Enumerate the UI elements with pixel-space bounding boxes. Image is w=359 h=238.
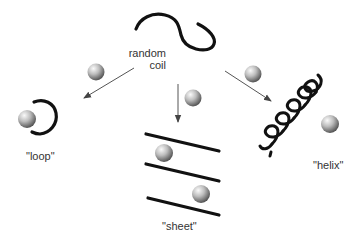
sphere-icon <box>88 64 105 81</box>
sphere-icon <box>192 185 210 203</box>
loop-label: "loop" <box>26 150 55 162</box>
random-coil-label-line2: coil <box>118 59 166 71</box>
sphere-icon <box>18 110 36 128</box>
random-coil-label: random coil <box>118 47 166 71</box>
sphere-icon <box>321 115 339 133</box>
random-coil-label-line1: random <box>118 47 166 59</box>
helix-strand <box>260 75 321 156</box>
helix-label: "helix" <box>313 159 343 171</box>
sphere-icon <box>155 144 173 162</box>
random-coil-strand <box>136 14 214 50</box>
sheet-strand-2 <box>146 164 219 181</box>
sphere-icon <box>245 66 262 83</box>
sphere-icon <box>185 90 202 107</box>
sheet-label: "sheet" <box>162 220 197 232</box>
sheet-strand-3 <box>148 198 219 215</box>
diagram-canvas <box>0 0 359 238</box>
